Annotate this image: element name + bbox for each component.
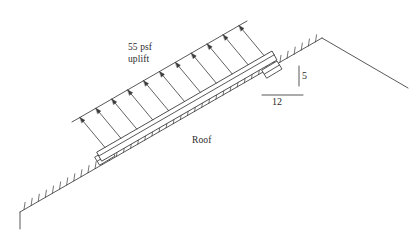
uplift-load-type: uplift	[128, 54, 149, 64]
uplift-load-label: 55 psfuplift	[128, 42, 152, 65]
roof-surface-line	[20, 38, 408, 229]
slope-rise-label: 5	[302, 70, 307, 82]
beam-member	[97, 51, 277, 161]
slope-run-label: 12	[272, 96, 282, 108]
roof-label: Roof	[192, 135, 211, 147]
uplift-arrows	[80, 26, 264, 148]
diagram-canvas	[0, 0, 416, 243]
roof-uplift-diagram: 55 psfuplift Roof 5 12	[0, 0, 416, 243]
uplift-load-magnitude: 55 psf	[128, 42, 152, 52]
